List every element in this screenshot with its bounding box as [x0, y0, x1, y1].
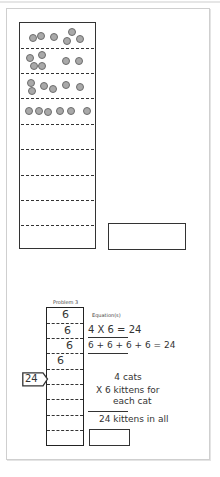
- tape-cell-value: 6: [62, 309, 69, 320]
- row-divider: [21, 200, 94, 201]
- word-line-1: 4 cats: [98, 372, 158, 383]
- row-divider: [47, 399, 83, 400]
- word-result: 24 kittens in all: [99, 414, 168, 425]
- equation-underline-1: [88, 337, 128, 338]
- counter-dot: [76, 83, 84, 91]
- equation-addition: 6 + 6 + 6 + 6 = 24: [88, 340, 175, 351]
- row-divider: [21, 149, 94, 150]
- counter-dot: [29, 34, 37, 42]
- equations-label: Equation(s): [92, 312, 121, 318]
- counter-dot: [76, 35, 84, 43]
- row-divider: [47, 415, 83, 416]
- counter-dot: [37, 32, 45, 40]
- tape-cell-value: 6: [66, 340, 73, 351]
- counter-dot: [44, 108, 52, 116]
- equation-underline-2: [88, 353, 128, 354]
- counter-dot: [62, 57, 70, 65]
- counter-dot: [63, 37, 71, 45]
- total-tag: 24: [22, 372, 47, 386]
- row-divider: [21, 175, 94, 176]
- problem-3-answer-box[interactable]: [89, 429, 130, 446]
- counter-dot: [27, 79, 35, 87]
- row-divider: [21, 73, 94, 74]
- counter-dot: [50, 33, 58, 41]
- word-line-2: X 6 kittens for: [96, 385, 160, 396]
- word-problem-underline: [88, 411, 128, 412]
- counter-dot: [38, 51, 46, 59]
- counter-dot: [49, 85, 57, 93]
- counter-dot: [28, 87, 36, 95]
- counter-dot: [40, 82, 48, 90]
- problem-title: Problem 3: [53, 299, 78, 305]
- row-divider: [21, 124, 94, 125]
- counter-dot: [35, 107, 43, 115]
- counter-dot: [68, 28, 76, 36]
- counter-dot: [25, 107, 33, 115]
- counter-dot: [38, 62, 46, 70]
- row-divider: [21, 98, 94, 99]
- counter-dot: [67, 107, 75, 115]
- counter-dot: [83, 107, 91, 115]
- tape-cell-value: 6: [57, 355, 64, 366]
- row-divider: [47, 353, 83, 354]
- tape-cell-value: 6: [64, 325, 71, 336]
- counter-dot: [30, 62, 38, 70]
- row-divider: [47, 369, 83, 370]
- counter-dot: [62, 81, 70, 89]
- counter-dot: [56, 107, 64, 115]
- row-divider: [47, 430, 83, 431]
- counter-dot: [26, 54, 34, 62]
- counter-dot: [75, 57, 83, 65]
- row-divider: [47, 384, 83, 385]
- row-divider: [21, 48, 94, 49]
- total-tag-value: 24: [25, 373, 38, 385]
- top-divider: [0, 1, 220, 3]
- model-1-answer-box[interactable]: [108, 223, 186, 250]
- word-line-3: each cat: [113, 396, 152, 407]
- row-divider: [47, 338, 83, 339]
- row-divider: [21, 225, 94, 226]
- equation-multiplication: 4 X 6 = 24: [88, 324, 141, 335]
